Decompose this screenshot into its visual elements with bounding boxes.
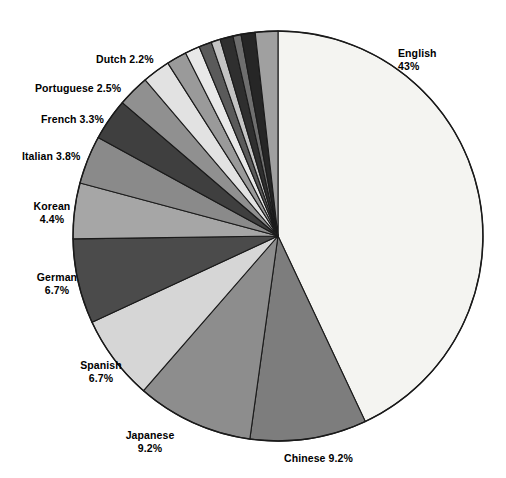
- slice-label-name: English: [398, 47, 437, 60]
- slice-label-value: 4.4%: [34, 213, 71, 226]
- slice-label-japanese: Japanese9.2%: [126, 429, 175, 455]
- slice-label-english: English43%: [398, 47, 437, 73]
- slice-label-text: Chinese 9.2%: [284, 452, 353, 465]
- slice-label-value: 9.2%: [126, 442, 175, 455]
- slice-label-value: 6.7%: [37, 284, 77, 297]
- slice-label-name: Korean: [34, 200, 71, 213]
- slice-label-name: German: [37, 271, 77, 284]
- slice-label-korean: Korean4.4%: [34, 200, 71, 226]
- pie-chart: English43%Chinese 9.2%Japanese9.2%Spanis…: [0, 0, 506, 478]
- slice-label-value: 6.7%: [80, 372, 122, 385]
- slice-label-italian: Italian 3.8%: [22, 150, 80, 163]
- slice-label-portuguese: Portuguese 2.5%: [35, 82, 121, 95]
- slice-label-text: Dutch 2.2%: [96, 53, 154, 66]
- slice-label-value: 43%: [398, 60, 437, 73]
- slice-label-text: French 3.3%: [41, 113, 104, 126]
- slice-label-text: Italian 3.8%: [22, 150, 80, 163]
- slice-label-spanish: Spanish6.7%: [80, 359, 122, 385]
- slice-label-french: French 3.3%: [41, 113, 104, 126]
- slice-label-name: Spanish: [80, 359, 122, 372]
- slice-label-chinese: Chinese 9.2%: [284, 452, 353, 465]
- slice-label-dutch: Dutch 2.2%: [96, 53, 154, 66]
- slice-label-text: Portuguese 2.5%: [35, 82, 121, 95]
- slice-label-name: Japanese: [126, 429, 175, 442]
- slice-label-german: German6.7%: [37, 271, 77, 297]
